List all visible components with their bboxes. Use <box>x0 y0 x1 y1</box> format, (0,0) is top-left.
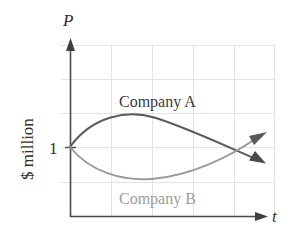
y-tick-label-1: 1 <box>49 139 58 158</box>
profit-comparison-chart: P t 1 $ million Company A Company B <box>0 0 287 238</box>
chart-figure: P t 1 $ million Company A Company B <box>0 0 287 238</box>
series-label-company-a: Company A <box>119 93 196 111</box>
series-label-company-b: Company B <box>119 190 196 208</box>
y-axis-variable-label: P <box>62 11 73 30</box>
y-axis-caption: $ million <box>18 118 37 180</box>
